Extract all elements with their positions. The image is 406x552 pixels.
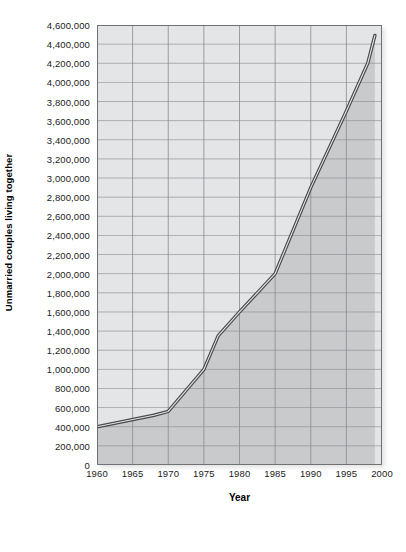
x-axis-tick-label: 1975 [193,468,215,479]
plot-area [97,25,382,465]
y-axis-tick-label: 3,400,000 [47,134,90,145]
x-axis-tick-label: 1985 [264,468,286,479]
x-axis-tick-label: 1965 [122,468,144,479]
y-axis-tick-label: 2,600,000 [47,211,90,222]
x-axis-tick-label: 1995 [336,468,358,479]
chart-area-fill [97,36,375,465]
y-axis-tick-label: 800,000 [55,383,90,394]
chart-figure: Unmarried couples living together 0200,0… [0,0,406,552]
y-axis-title-text: Unmarried couples living together [4,154,15,311]
y-axis-tick-label: 3,000,000 [47,173,90,184]
y-axis-tick-label: 4,200,000 [47,58,90,69]
y-axis-tick-label: 4,600,000 [47,20,90,31]
y-axis-tick-label: 600,000 [55,402,90,413]
y-axis-tick-label: 1,400,000 [47,326,90,337]
y-axis-tick-label: 1,800,000 [47,287,90,298]
x-axis-title: Year [97,492,382,503]
x-axis-tick-labels: 196019651970197519801985199019952000 [97,468,382,484]
x-axis-tick-label: 1990 [300,468,322,479]
y-axis-tick-labels: 0200,000400,000600,000800,0001,000,0001,… [18,25,94,465]
y-axis-tick-label: 3,200,000 [47,153,90,164]
figure-caption [30,0,330,14]
y-axis-tick-label: 200,000 [55,440,90,451]
y-axis-tick-label: 1,600,000 [47,306,90,317]
y-axis-tick-label: 4,000,000 [47,77,90,88]
x-axis-tick-label: 1960 [86,468,108,479]
y-axis-tick-label: 3,800,000 [47,96,90,107]
y-axis-tick-label: 2,800,000 [47,192,90,203]
chart-plot-svg [97,25,382,465]
y-axis-tick-label: 2,000,000 [47,268,90,279]
y-axis-tick-label: 2,400,000 [47,230,90,241]
y-axis-tick-label: 400,000 [55,421,90,432]
y-axis-tick-label: 1,000,000 [47,364,90,375]
x-axis-tick-label: 1980 [229,468,251,479]
y-axis-tick-label: 3,600,000 [47,115,90,126]
y-axis-tick-label: 1,200,000 [47,345,90,356]
y-axis-title: Unmarried couples living together [0,0,18,465]
y-axis-tick-label: 2,200,000 [47,249,90,260]
y-axis-tick-label: 4,400,000 [47,39,90,50]
x-axis-tick-label: 1970 [157,468,179,479]
x-axis-tick-label: 2000 [371,468,393,479]
